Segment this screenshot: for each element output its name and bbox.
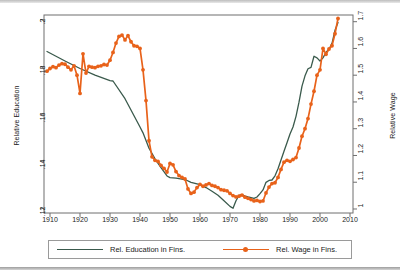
legend-item-wage: Rel. Wage in Fins. bbox=[223, 241, 337, 258]
x-tick-label: 2000 bbox=[312, 216, 328, 223]
y-right-tick-label: 1 bbox=[357, 204, 364, 208]
chart-figure: Relative Education Relative Wage 1910192… bbox=[0, 0, 400, 270]
y-right-tick-label: 1.6 bbox=[357, 37, 364, 47]
y-right-tick-label: 1.2 bbox=[357, 144, 364, 154]
x-tick-label: 2010 bbox=[342, 216, 358, 223]
chart-legend: Rel. Education in Fins. Rel. Wage in Fin… bbox=[48, 240, 352, 259]
y-axis-left-title: Relative Education bbox=[13, 76, 20, 156]
y-left-tick-label: .16 bbox=[40, 113, 47, 123]
y-right-tick-label: 1.3 bbox=[357, 117, 364, 127]
y-left-tick-label: .14 bbox=[40, 160, 47, 170]
x-tick-label: 1990 bbox=[282, 216, 298, 223]
legend-item-education: Rel. Education in Fins. bbox=[57, 241, 185, 258]
x-tick-label: 1950 bbox=[162, 216, 178, 223]
x-tick-label: 1930 bbox=[102, 216, 118, 223]
x-tick-label: 1980 bbox=[252, 216, 268, 223]
plot-area bbox=[0, 0, 400, 270]
x-tick-label: 1970 bbox=[222, 216, 238, 223]
x-tick-label: 1910 bbox=[42, 216, 58, 223]
y-right-tick-label: 1.1 bbox=[357, 171, 364, 181]
y-left-tick-label: .2 bbox=[40, 18, 47, 24]
y-left-tick-label: .18 bbox=[40, 65, 47, 75]
legend-swatch-line-marker-icon bbox=[223, 245, 269, 255]
x-tick-label: 1920 bbox=[72, 216, 88, 223]
x-tick-label: 1960 bbox=[192, 216, 208, 223]
y-right-tick-label: 1.5 bbox=[357, 64, 364, 74]
y-left-tick-label: .12 bbox=[40, 207, 47, 217]
x-tick-label: 1940 bbox=[132, 216, 148, 223]
legend-swatch-line-icon bbox=[57, 245, 103, 255]
y-axis-right-title: Relative Wage bbox=[389, 76, 396, 156]
y-right-tick-label: 1.7 bbox=[357, 10, 364, 20]
y-right-tick-label: 1.4 bbox=[357, 91, 364, 101]
legend-label-wage: Rel. Wage in Fins. bbox=[276, 245, 337, 254]
legend-label-education: Rel. Education in Fins. bbox=[110, 245, 185, 254]
